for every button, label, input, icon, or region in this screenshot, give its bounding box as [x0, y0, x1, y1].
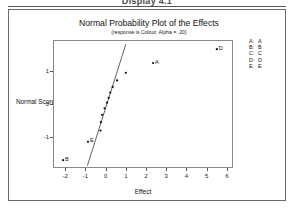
y-tick-mark — [50, 71, 53, 72]
x-tick-mark — [227, 168, 228, 171]
point-label-a: A — [155, 59, 159, 65]
data-points — [62, 48, 218, 161]
y-tick-label: 1 — [29, 68, 49, 74]
legend: A:AB:BC:CD:DE:E — [249, 38, 293, 69]
x-tick-label: 1 — [119, 173, 133, 179]
x-tick-mark — [65, 168, 66, 171]
chart-subtitle: (response is Colour, Alpha = .20) — [39, 29, 259, 35]
legend-label: C — [258, 50, 262, 56]
x-tick-label: 5 — [200, 173, 214, 179]
legend-label: B — [258, 44, 262, 50]
x-tick-label: -2 — [58, 173, 72, 179]
x-tick-label: 4 — [179, 173, 193, 179]
chart-title: Normal Probability Plot of the Effects — [39, 18, 259, 28]
y-tick-label: -1 — [29, 134, 49, 140]
plot-area — [53, 40, 233, 168]
y-tick-label: 0 — [29, 101, 49, 107]
x-tick-mark — [146, 168, 147, 171]
x-tick-label: 6 — [220, 173, 234, 179]
x-axis-label: Effect — [53, 188, 233, 195]
legend-row: E:E — [249, 63, 293, 69]
x-tick-label: 2 — [139, 173, 153, 179]
fit-line — [87, 44, 125, 165]
legend-label: A — [258, 38, 262, 44]
x-tick-mark — [106, 168, 107, 171]
figure-frame: Normal Probability Plot of the Effects (… — [8, 9, 286, 201]
point-label-d: D — [219, 45, 223, 51]
legend-key: E: — [249, 63, 258, 69]
legend-label: E — [258, 63, 262, 69]
y-tick-mark — [50, 137, 53, 138]
point-label-e: E — [90, 137, 94, 143]
x-tick-mark — [207, 168, 208, 171]
legend-label: D — [258, 57, 262, 63]
plot-canvas — [54, 41, 234, 169]
header-divider — [8, 6, 286, 7]
x-tick-mark — [166, 168, 167, 171]
x-tick-label: -1 — [78, 173, 92, 179]
x-tick-mark — [85, 168, 86, 171]
point-label-b: B — [65, 156, 69, 162]
x-tick-mark — [126, 168, 127, 171]
y-tick-mark — [50, 104, 53, 105]
x-tick-label: 3 — [159, 173, 173, 179]
x-tick-mark — [186, 168, 187, 171]
x-tick-label: 0 — [99, 173, 113, 179]
